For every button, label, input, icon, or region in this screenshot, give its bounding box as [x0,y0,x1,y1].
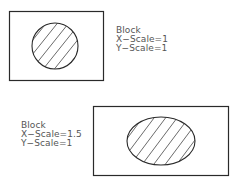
bottom-block-y-scale: Y−Scale=1 [21,139,82,148]
top-block-label: Block X−Scale=1 Y−Scale=1 [116,26,168,53]
top-block [10,12,104,87]
top-hatch-pattern [12,16,92,86]
top-block-frame [10,12,104,81]
top-block-y-scale: Y−Scale=1 [116,44,168,53]
bottom-block-label: Block X−Scale=1.5 Y−Scale=1 [21,121,82,148]
bottom-block [94,107,229,181]
